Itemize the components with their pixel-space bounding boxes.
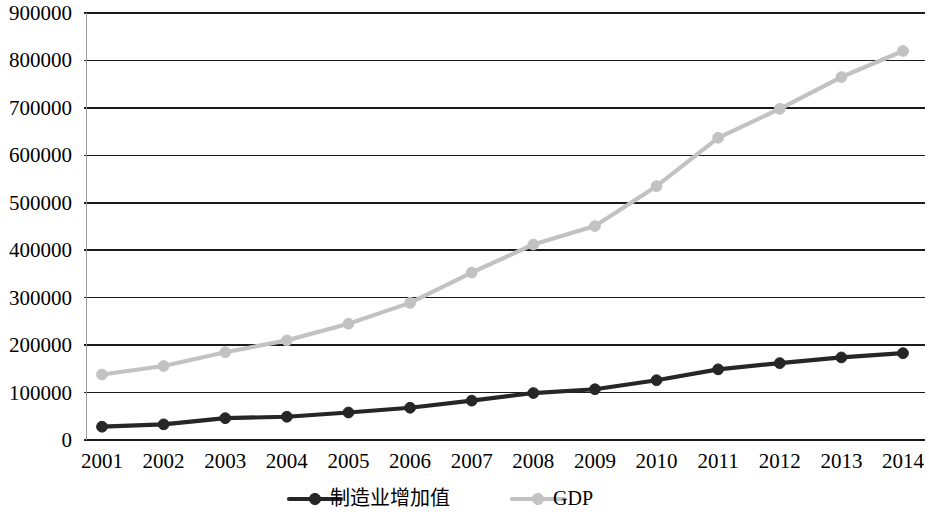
x-tick-label: 2004: [266, 449, 309, 473]
x-tick-label: 2014: [882, 449, 925, 473]
legend-label: GDP: [553, 487, 593, 509]
x-tick-label: 2011: [698, 449, 739, 473]
data-point-marker: [528, 239, 539, 250]
line-chart: 9000008000007000006000005000004000003000…: [0, 0, 929, 516]
gridlines-group: [84, 13, 925, 440]
x-tick-label: 2001: [81, 449, 123, 473]
data-point-marker: [590, 221, 601, 232]
x-tick-label: 2009: [574, 449, 616, 473]
data-point-marker: [836, 352, 847, 363]
data-point-marker: [97, 369, 108, 380]
data-series-group: [97, 46, 909, 433]
legend-label: 制造业增加值: [330, 487, 450, 509]
y-axis-tick-labels: 9000008000007000006000005000004000003000…: [9, 1, 72, 452]
series-manufacturing: [97, 348, 909, 432]
data-point-marker: [343, 318, 354, 329]
y-tick-label: 400000: [9, 238, 72, 262]
data-point-marker: [898, 46, 909, 57]
y-tick-label: 500000: [9, 191, 72, 215]
data-point-marker: [281, 335, 292, 346]
x-tick-label: 2006: [389, 449, 431, 473]
data-point-marker: [343, 407, 354, 418]
y-tick-label: 600000: [9, 143, 72, 167]
legend-item-manufacturing[interactable]: 制造业增加值: [289, 487, 450, 509]
y-tick-label: 0: [62, 428, 73, 452]
data-point-marker: [220, 413, 231, 424]
y-tick-label: 200000: [9, 333, 72, 357]
chart-legend: 制造业增加值GDP: [289, 487, 593, 509]
data-point-marker: [158, 361, 169, 372]
data-point-marker: [97, 421, 108, 432]
x-tick-label: 2008: [512, 449, 554, 473]
y-tick-label: 800000: [9, 48, 72, 72]
y-tick-label: 900000: [9, 1, 72, 25]
y-tick-label: 300000: [9, 286, 72, 310]
data-point-marker: [158, 419, 169, 430]
x-tick-label: 2005: [327, 449, 369, 473]
x-tick-label: 2003: [204, 449, 246, 473]
series-gdp: [97, 46, 909, 380]
data-point-marker: [774, 358, 785, 369]
data-point-marker: [405, 402, 416, 413]
data-point-marker: [651, 181, 662, 192]
legend-marker-swatch: [309, 493, 320, 504]
y-tick-label: 100000: [9, 381, 72, 405]
data-point-marker: [528, 388, 539, 399]
data-point-marker: [590, 384, 601, 395]
series-line: [102, 51, 903, 375]
x-tick-label: 2013: [820, 449, 862, 473]
data-point-marker: [651, 375, 662, 386]
data-point-marker: [220, 347, 231, 358]
data-point-marker: [466, 395, 477, 406]
y-tick-label: 700000: [9, 96, 72, 120]
chart-container: 9000008000007000006000005000004000003000…: [0, 0, 929, 516]
legend-item-gdp[interactable]: GDP: [512, 487, 593, 509]
data-point-marker: [713, 364, 724, 375]
data-point-marker: [405, 297, 416, 308]
data-point-marker: [836, 72, 847, 83]
x-tick-label: 2012: [759, 449, 801, 473]
data-point-marker: [898, 348, 909, 359]
legend-marker-swatch: [532, 493, 543, 504]
x-tick-label: 2007: [451, 449, 493, 473]
data-point-marker: [281, 411, 292, 422]
data-point-marker: [713, 132, 724, 143]
x-axis-tick-labels: 2001200220032004200520062007200820092010…: [81, 449, 925, 473]
x-tick-label: 2002: [143, 449, 185, 473]
x-tick-label: 2010: [636, 449, 678, 473]
data-point-marker: [774, 103, 785, 114]
data-point-marker: [466, 267, 477, 278]
